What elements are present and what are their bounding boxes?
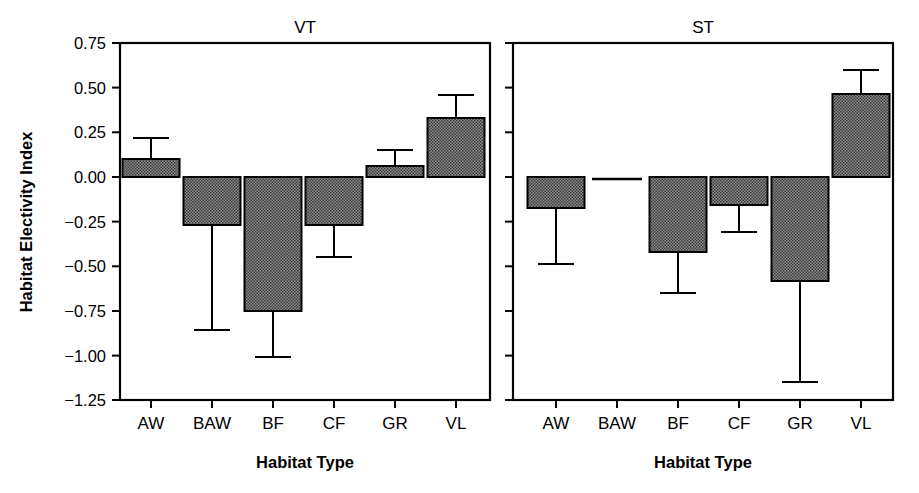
y-tick-label-6: −0.75 — [64, 302, 106, 320]
panel-vt-bar-group-aw — [123, 138, 180, 177]
panel-st-bar-group-cf — [711, 177, 768, 232]
bar-st-aw — [528, 177, 585, 208]
x-cat-label-vt-aw: AW — [138, 414, 165, 433]
panel-st-bar-group-vl — [833, 70, 890, 177]
x-cat-label-st-cf: CF — [728, 414, 751, 433]
panel-vt-bar-group-vl — [428, 95, 485, 177]
panel-vt-bar-group-baw — [184, 177, 241, 330]
panel-vt-bar-group-gr — [367, 150, 424, 177]
bar-vt-cf — [306, 177, 363, 225]
y-tick-label-0: 0.75 — [74, 34, 106, 52]
y-tick-label-2: 0.25 — [74, 123, 106, 141]
bar-vt-bf — [245, 177, 302, 311]
bar-st-gr — [772, 177, 829, 281]
bar-st-vl — [833, 94, 890, 177]
panel-title-st: ST — [692, 18, 714, 37]
bar-st-bf — [650, 177, 707, 252]
panel-st-x-ticks — [556, 400, 861, 408]
x-cat-label-st-bf: BF — [667, 414, 689, 433]
panel-st-bar-group-bf — [650, 177, 707, 293]
x-axis-title-right: Habitat Type — [654, 453, 752, 471]
panel-st-bar-group-aw — [528, 177, 585, 264]
figure-container: 0.75 0.50 0.25 0.00 −0.25 −0.50 −0.75 −1… — [0, 0, 919, 493]
panel-vt-bar-group-cf — [306, 177, 363, 257]
bar-chart-figure: 0.75 0.50 0.25 0.00 −0.25 −0.50 −0.75 −1… — [0, 0, 919, 493]
y-tick-label-8: −1.25 — [64, 391, 106, 409]
bar-vt-vl — [428, 118, 485, 177]
panel-vt: 0.75 0.50 0.25 0.00 −0.25 −0.50 −0.75 −1… — [17, 18, 490, 471]
y-tick-label-7: −1.00 — [64, 347, 106, 365]
panel-vt-y-ticks — [112, 43, 120, 400]
x-cat-label-vt-gr: GR — [382, 414, 408, 433]
panel-title-vt: VT — [294, 18, 316, 37]
x-cat-label-st-vl: VL — [851, 414, 872, 433]
y-tick-label-4: −0.25 — [64, 213, 106, 231]
x-cat-label-st-gr: GR — [787, 414, 813, 433]
bar-vt-baw — [184, 177, 241, 225]
bar-vt-aw — [123, 159, 180, 177]
y-tick-label-5: −0.50 — [64, 257, 106, 275]
bar-st-cf — [711, 177, 768, 205]
y-tick-label-1: 0.50 — [74, 79, 106, 97]
panel-st: AW BAW BF CF GR VL ST Habitat Type — [505, 18, 893, 471]
x-cat-label-vt-vl: VL — [446, 414, 467, 433]
x-cat-label-st-aw: AW — [543, 414, 570, 433]
x-axis-title-left: Habitat Type — [256, 453, 354, 471]
panel-st-y-ticks — [505, 43, 513, 400]
x-cat-label-vt-bf: BF — [262, 414, 284, 433]
y-axis-title: Habitat Electivity Index — [17, 131, 35, 312]
panel-vt-x-ticks — [151, 400, 456, 408]
x-cat-label-vt-cf: CF — [323, 414, 346, 433]
x-cat-label-st-baw: BAW — [598, 414, 636, 433]
x-cat-label-vt-baw: BAW — [193, 414, 231, 433]
panel-vt-bar-group-bf — [245, 177, 302, 357]
panel-st-bar-group-gr — [772, 177, 829, 382]
bar-vt-gr — [367, 166, 424, 177]
y-tick-label-3: 0.00 — [74, 168, 106, 186]
